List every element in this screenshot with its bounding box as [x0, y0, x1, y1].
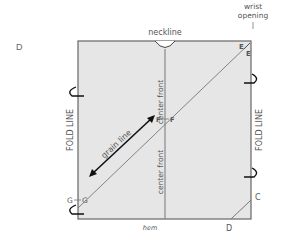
hem-label: hem: [143, 224, 157, 232]
point-g-1: G: [67, 196, 73, 205]
point-c: C: [255, 193, 261, 202]
pattern-diagram: neckline center front center front wrist…: [0, 0, 281, 240]
point-f-1: F: [156, 116, 160, 124]
neckline-label: neckline: [148, 28, 182, 37]
point-e-1: E: [239, 43, 244, 51]
wrist-label-2: opening: [238, 11, 269, 20]
center-front-bottom-label: center front: [156, 150, 165, 194]
point-g-2: G: [82, 196, 88, 205]
point-e-2: E: [246, 50, 251, 58]
point-d: D: [226, 224, 232, 233]
fold-line-left-label: FOLD LINE: [66, 109, 75, 151]
wrist-label-1: wrist: [244, 2, 262, 11]
fold-line-right-label: FOLD LINE: [255, 109, 264, 151]
point-f-2: F: [170, 116, 174, 124]
